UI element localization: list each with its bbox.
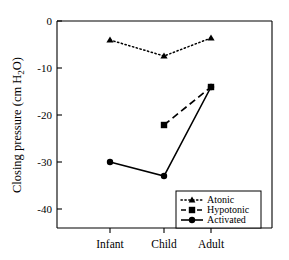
legend-marker-circle-icon [189,217,195,223]
point-activated-child [161,173,167,179]
x-label-child: Child [151,238,177,250]
y-tick-label-0: 0 [47,15,53,27]
y-axis-title: Closing pressure (cm H2O) [10,57,26,193]
series-hypotonic-line [164,87,211,125]
y-axis-title-end: O) [10,57,24,70]
y-tick-label-3: -30 [37,156,52,168]
point-atonic-adult [207,34,214,40]
series-activated-line [110,87,211,176]
chart-figure: Closing pressure (cm H2O) 0 -10 -20 -30 … [0,0,289,260]
x-ticks [110,228,211,233]
y-axis-title-main: Closing pressure (cm H [10,75,24,193]
point-atonic-infant [106,36,113,42]
series-activated [107,84,214,179]
point-activated-infant [107,159,113,165]
x-tick-labels: Infant Child Adult [96,238,225,250]
legend-marker-square-icon [189,207,195,213]
legend-label-activated: Activated [207,214,246,225]
y-tick-label-1: -10 [37,62,52,74]
point-hypotonic-child [161,122,167,128]
y-ticks [57,21,62,209]
svg-text:Closing pressure (cm H2O): Closing pressure (cm H2O) [10,57,26,193]
y-tick-labels: 0 -10 -20 -30 -40 [37,15,52,215]
series-hypotonic [161,84,214,128]
x-label-infant: Infant [96,238,124,250]
line-chart: Closing pressure (cm H2O) 0 -10 -20 -30 … [0,0,289,260]
series-atonic-line [110,38,211,56]
series-atonic [106,34,214,58]
chart-legend: Atonic Hypotonic Activated [176,191,261,228]
y-tick-label-4: -40 [37,203,52,215]
y-tick-label-2: -20 [37,109,52,121]
point-hypotonic-adult [208,84,214,90]
x-label-adult: Adult [198,238,225,250]
